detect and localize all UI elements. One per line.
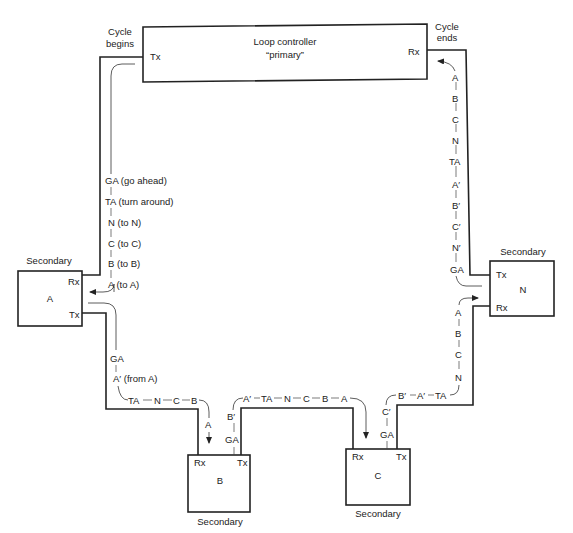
secondary-a: Secondary A Rx Tx	[18, 255, 82, 326]
svg-text:GA (go ahead): GA (go ahead)	[105, 175, 167, 186]
svg-text:B′: B′	[227, 411, 235, 422]
cycle-ends-label-2: ends	[437, 32, 458, 43]
svg-text:N: N	[154, 395, 161, 406]
svg-text:GA: GA	[380, 429, 394, 440]
sdlc-loop-diagram: Loop controller “primary” Tx Rx Cycle be…	[0, 0, 573, 533]
svg-text:B′: B′	[398, 390, 406, 401]
primary-rx-label: Rx	[408, 46, 420, 57]
secondary-b: Rx Tx B Secondary	[188, 455, 250, 527]
svg-text:B: B	[455, 328, 461, 339]
cycle-begins-label-2: begins	[106, 38, 134, 49]
cycle-begins-label: Cycle	[108, 26, 132, 37]
svg-text:N: N	[455, 372, 462, 383]
svg-text:TA: TA	[449, 156, 461, 167]
svg-text:TA: TA	[128, 395, 140, 406]
svg-text:C′: C′	[382, 406, 391, 417]
secondary-a-rx: Rx	[68, 276, 80, 287]
svg-text:A′: A′	[243, 393, 251, 404]
secondary-b-name: B	[217, 475, 223, 486]
secondary-c-tx: Tx	[396, 451, 407, 462]
secondary-b-rx: Rx	[194, 457, 206, 468]
svg-text:C: C	[455, 349, 462, 360]
svg-text:TA: TA	[261, 393, 273, 404]
svg-text:N (to N): N (to N)	[108, 217, 141, 228]
primary-tx-label: Tx	[150, 51, 161, 62]
svg-text:A′: A′	[452, 179, 460, 190]
svg-text:N: N	[284, 393, 291, 404]
svg-text:C: C	[303, 393, 310, 404]
svg-text:A: A	[205, 419, 212, 430]
cycle-ends-label: Cycle	[435, 21, 459, 32]
svg-text:TA (turn around): TA (turn around)	[105, 196, 173, 207]
secondary-b-caption: Secondary	[197, 516, 243, 527]
svg-text:B: B	[191, 395, 197, 406]
secondary-n-caption: Secondary	[500, 246, 546, 257]
svg-text:B (to B): B (to B)	[108, 258, 140, 269]
svg-text:A′ (from A): A′ (from A)	[113, 373, 158, 384]
svg-text:C: C	[452, 114, 459, 125]
secondary-a-name: A	[47, 293, 54, 304]
svg-text:A: A	[341, 393, 348, 404]
secondary-c-rx: Rx	[352, 451, 364, 462]
svg-text:TA: TA	[435, 390, 447, 401]
svg-text:GA: GA	[110, 353, 124, 364]
primary-subtitle: “primary”	[266, 49, 304, 60]
svg-text:N′: N′	[452, 242, 461, 253]
svg-text:C: C	[173, 395, 180, 406]
secondary-n: Secondary Tx N Rx	[490, 246, 554, 316]
flow-b-out: GA B′ A′ TA N C B A	[225, 393, 366, 455]
secondary-b-tx: Tx	[237, 457, 248, 468]
svg-text:B: B	[322, 393, 328, 404]
svg-text:A′: A′	[417, 390, 425, 401]
secondary-a-tx: Tx	[69, 309, 80, 320]
primary-title: Loop controller	[254, 36, 317, 47]
secondary-n-tx: Tx	[496, 269, 507, 280]
loop-controller-primary: Loop controller “primary” Tx Rx	[143, 24, 427, 82]
svg-text:A: A	[455, 307, 462, 318]
svg-text:A: A	[452, 72, 459, 83]
secondary-n-name: N	[520, 284, 527, 295]
svg-text:N: N	[452, 135, 459, 146]
svg-text:C′: C′	[452, 221, 461, 232]
svg-text:GA: GA	[225, 434, 239, 445]
flow-n-to-primary: GA N′ C′ B′ A′ TA N C B A	[438, 61, 482, 286]
svg-text:GA: GA	[450, 264, 464, 275]
flow-primary-to-a: GA (go ahead) TA (turn around) N (to N) …	[90, 64, 173, 292]
secondary-a-caption: Secondary	[26, 255, 72, 266]
svg-text:B′: B′	[452, 200, 460, 211]
secondary-c-name: C	[375, 470, 382, 481]
secondary-c-caption: Secondary	[355, 508, 401, 519]
svg-text:C (to C): C (to C)	[108, 238, 141, 249]
secondary-n-rx: Rx	[496, 302, 508, 313]
flow-c-out: GA C′ B′ A′ TA N C B A	[380, 298, 478, 449]
secondary-c: Rx Tx C Secondary	[346, 449, 410, 519]
svg-text:B: B	[452, 93, 458, 104]
